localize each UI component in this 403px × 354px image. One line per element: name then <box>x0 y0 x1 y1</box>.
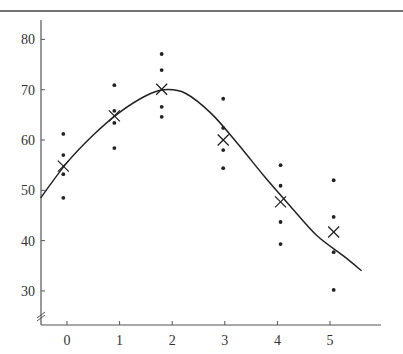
mean-x-marker <box>58 161 69 172</box>
data-point-dot <box>160 105 164 109</box>
data-point-dot <box>112 121 116 125</box>
y-tick-label: 50 <box>21 183 35 198</box>
data-point-dot <box>112 146 116 150</box>
x-tick-label: 5 <box>327 333 334 348</box>
y-axis: 304050607080 <box>21 20 45 325</box>
observation-points <box>61 52 335 292</box>
data-point-dot <box>112 109 116 113</box>
data-point-dot <box>160 68 164 72</box>
data-point-dot <box>61 196 65 200</box>
data-point-dot <box>221 97 225 101</box>
x-tick-label: 3 <box>221 333 228 348</box>
data-point-dot <box>221 126 225 130</box>
x-tick-label: 1 <box>116 333 123 348</box>
x-axis: 012345 <box>41 321 381 348</box>
data-point-dot <box>332 250 336 254</box>
data-point-dot <box>279 242 283 246</box>
data-point-dot <box>61 153 65 157</box>
x-tick-label: 0 <box>64 333 71 348</box>
data-point-dot <box>332 215 336 219</box>
fitted-curve <box>41 90 362 271</box>
data-point-dot <box>279 163 283 167</box>
data-point-dot <box>160 115 164 119</box>
data-point-dot <box>279 184 283 188</box>
data-point-dot <box>61 132 65 136</box>
y-tick-label: 70 <box>21 83 35 98</box>
mean-x-marker <box>275 196 286 207</box>
data-point-dot <box>332 288 336 292</box>
chart-canvas: 304050607080 012345 <box>0 0 403 354</box>
data-point-dot <box>160 52 164 56</box>
x-tick-label: 2 <box>169 333 176 348</box>
data-point-dot <box>221 148 225 152</box>
y-tick-label: 30 <box>21 284 35 299</box>
fitted-curve-path <box>41 90 362 271</box>
data-point-dot <box>112 83 116 87</box>
y-tick-label: 60 <box>21 133 35 148</box>
data-point-dot <box>332 178 336 182</box>
y-tick-label: 80 <box>21 32 35 47</box>
data-point-dot <box>221 166 225 170</box>
y-tick-label: 40 <box>21 234 35 249</box>
mean-x-marker <box>218 135 229 146</box>
x-tick-label: 4 <box>274 333 281 348</box>
data-point-dot <box>61 172 65 176</box>
data-point-dot <box>279 220 283 224</box>
mean-x-marker <box>328 227 339 238</box>
